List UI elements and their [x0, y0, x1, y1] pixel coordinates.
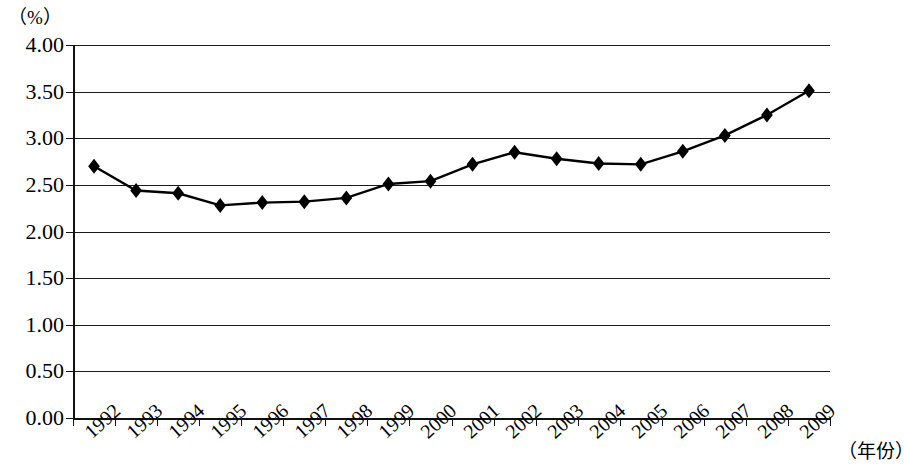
data-point-marker — [761, 107, 773, 122]
data-point-marker — [803, 83, 815, 98]
y-axis-tick-label: 0.00 — [26, 407, 65, 429]
x-axis-tick-labels: 1992199319941995199619971998199920002001… — [73, 426, 904, 472]
data-point-marker — [593, 156, 605, 171]
data-point-marker — [130, 183, 142, 198]
y-axis-tick-label: 3.00 — [26, 127, 65, 149]
data-point-marker — [341, 190, 353, 205]
data-point-marker — [551, 151, 563, 166]
data-point-marker — [719, 128, 731, 143]
series-markers — [88, 83, 815, 213]
x-axis-tick — [73, 418, 74, 426]
data-point-marker — [214, 198, 226, 213]
data-point-marker — [635, 157, 647, 172]
data-point-marker — [383, 176, 395, 191]
data-point-marker — [88, 159, 100, 174]
y-axis-tick-labels: 4.003.503.002.502.001.501.000.500.00 — [0, 0, 64, 472]
data-series — [73, 45, 830, 418]
series-line — [94, 91, 809, 206]
y-axis-tick-label: 3.50 — [26, 81, 65, 103]
y-axis-tick-label: 2.00 — [26, 221, 65, 243]
data-point-marker — [298, 194, 310, 209]
y-axis-tick-label: 4.00 — [26, 34, 65, 56]
plot-area — [73, 45, 830, 418]
y-axis-tick-label: 1.50 — [26, 267, 65, 289]
data-point-marker — [425, 174, 437, 189]
data-point-marker — [677, 144, 689, 159]
data-point-marker — [509, 145, 521, 160]
data-point-marker — [467, 157, 479, 172]
line-chart: （%） 4.003.503.002.502.001.501.000.500.00… — [0, 0, 904, 472]
y-axis-tick-label: 0.50 — [26, 360, 65, 382]
y-axis-tick-label: 1.00 — [26, 314, 65, 336]
data-point-marker — [172, 186, 184, 201]
y-axis-tick-label: 2.50 — [26, 174, 65, 196]
data-point-marker — [256, 195, 268, 210]
x-axis-caption: （年份） — [838, 436, 904, 463]
